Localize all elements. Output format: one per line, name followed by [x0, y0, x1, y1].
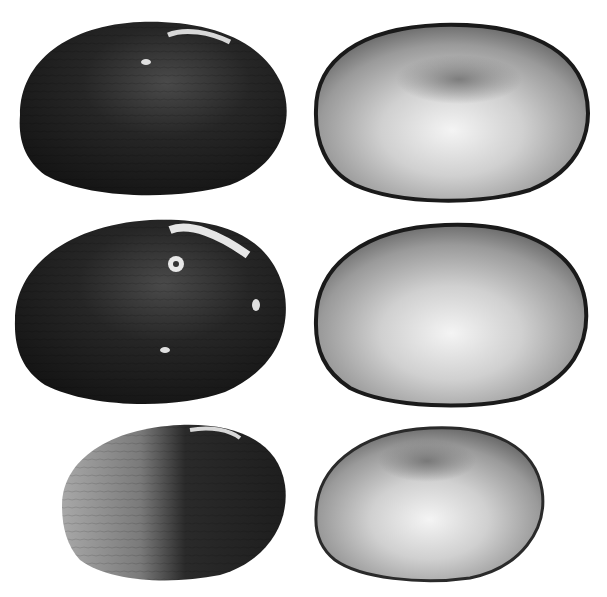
- shell-interior-3: [316, 428, 543, 581]
- shell-exterior-2: [15, 220, 286, 404]
- shells-illustration: [0, 0, 607, 597]
- shell-plate: [0, 0, 607, 597]
- shell-interior-1: [316, 25, 588, 201]
- shell-exterior-1: [20, 22, 287, 195]
- shell-exterior-3: [62, 425, 286, 581]
- shell-interior-2: [316, 225, 586, 406]
